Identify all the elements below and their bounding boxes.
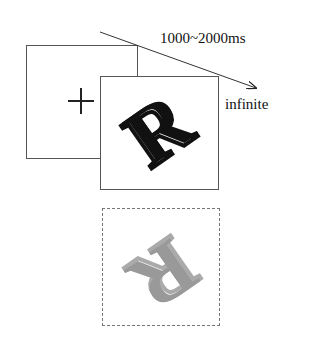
fixation-cross-icon [68,88,94,114]
mirrored-letter-r-icon: R R [103,209,219,325]
rotated-letter-r-icon: R R [101,77,218,189]
svg-text:R: R [113,223,212,325]
mirror-stimulus-frame: R R [102,208,220,326]
stimulus-frame: R R [100,76,219,190]
duration-label-stimulus: infinite [225,96,268,113]
duration-label-fixation: 1000~2000ms [160,30,246,47]
svg-text:R: R [110,77,209,181]
